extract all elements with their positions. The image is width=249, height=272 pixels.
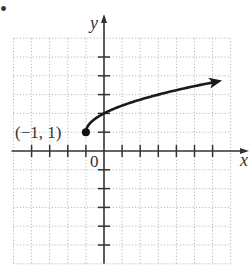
y-axis-label: y: [88, 13, 98, 33]
x-axis-label: x: [239, 150, 248, 170]
origin-label: 0: [90, 152, 99, 171]
graph: • y x 0 (−1, 1): [0, 0, 249, 272]
problem-marker: •: [0, 0, 7, 20]
function-curve: [86, 82, 216, 132]
point-label: (−1, 1): [15, 123, 61, 142]
y-axis-arrow-icon: [101, 14, 107, 23]
start-point: [82, 128, 90, 136]
